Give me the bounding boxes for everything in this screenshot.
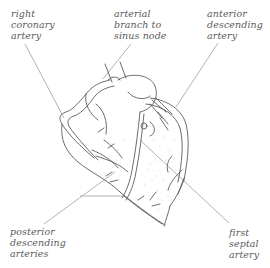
stipple-shading (112, 136, 177, 211)
label-line: coronary (11, 19, 55, 30)
label-posterior-descending-arteries: posterior descending arteries (10, 226, 66, 259)
label-line: descending (10, 237, 66, 248)
label-line: posterior (10, 226, 66, 237)
label-first-septal-artery: first septal artery (229, 227, 259, 260)
label-line: artery (11, 30, 55, 41)
leader-line-sinus (103, 44, 131, 79)
label-line: first (229, 227, 259, 238)
label-arterial-branch-sinus-node: arterial branch to sinus node (114, 8, 167, 41)
label-line: branch to (114, 19, 167, 30)
heart-outline (60, 62, 188, 226)
label-line: right (11, 8, 55, 19)
coronary-artery-diagram: right coronary artery arterial branch to… (0, 0, 270, 268)
label-line: descending (207, 19, 263, 30)
label-line: anterior (207, 8, 263, 19)
label-right-coronary-artery: right coronary artery (11, 8, 55, 41)
label-line: arterial (114, 8, 167, 19)
label-line: sinus node (114, 30, 167, 41)
label-line: septal (229, 238, 259, 249)
leader-lines (25, 43, 229, 224)
label-line: arteries (10, 248, 66, 259)
leader-line-septal (140, 140, 229, 223)
label-anterior-descending-artery: anterior descending artery (207, 8, 263, 41)
label-line: artery (207, 30, 263, 41)
leader-line-rca (25, 44, 64, 118)
label-line: artery (229, 249, 259, 260)
leader-line-lad (176, 43, 218, 107)
